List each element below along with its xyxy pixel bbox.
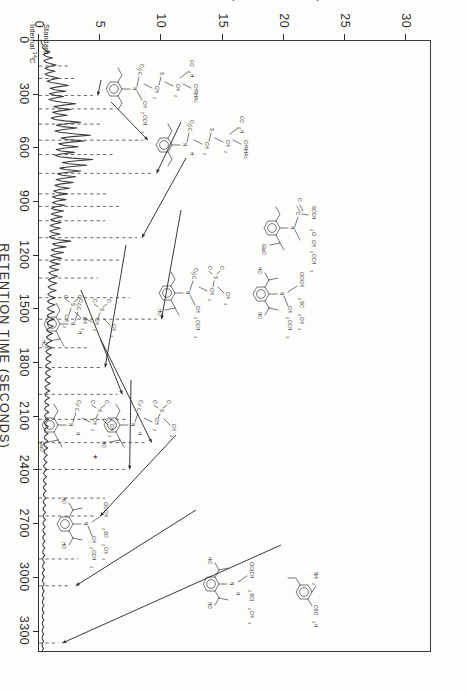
svg-text:C: C bbox=[136, 408, 141, 412]
svg-text:CH: CH bbox=[154, 418, 159, 425]
svg-text:3: 3 bbox=[109, 335, 113, 337]
svg-text:CH: CH bbox=[249, 611, 254, 618]
svg-text:NH: NH bbox=[313, 572, 318, 579]
svg-text:N: N bbox=[132, 87, 137, 90]
structure-mesylate-hydroxy-2: CH3 S O O CH2 C O N H bbox=[96, 392, 190, 486]
svg-text:CH: CH bbox=[111, 324, 116, 331]
svg-text:H: H bbox=[77, 331, 82, 334]
structure-aminophenyl-sulfate: NH2 OSO3H bbox=[268, 558, 344, 634]
svg-text:SO: SO bbox=[103, 531, 108, 538]
svg-text:CO: CO bbox=[189, 60, 194, 67]
svg-text:C: C bbox=[187, 128, 192, 132]
svg-text:SO: SO bbox=[299, 301, 304, 308]
svg-text:3: 3 bbox=[140, 131, 144, 133]
svg-text:2: 2 bbox=[90, 429, 94, 431]
svg-text:ClOCH: ClOCH bbox=[299, 272, 304, 287]
svg-text:SO): SO) bbox=[249, 593, 254, 602]
svg-text:GluO: GluO bbox=[39, 441, 44, 452]
x-axis-tick-label: 900 bbox=[17, 190, 31, 212]
svg-text:N: N bbox=[182, 143, 187, 146]
svg-text:C: C bbox=[191, 276, 196, 280]
svg-text:CH: CH bbox=[171, 424, 176, 431]
svg-text:HO: HO bbox=[207, 557, 212, 564]
svg-text:3: 3 bbox=[297, 328, 301, 330]
svg-text:OCH: OCH bbox=[142, 115, 147, 125]
svg-text:H: H bbox=[189, 74, 194, 77]
figure-page: RETENTION TIME (SECONDS) RESPONSE (MILLI… bbox=[0, 0, 469, 693]
x-axis-tick-label: 3300 bbox=[17, 616, 31, 645]
svg-text:2: 2 bbox=[193, 317, 197, 319]
internal-standard-label-2: Standard bbox=[41, 24, 51, 55]
svg-text:HO: HO bbox=[61, 497, 66, 504]
svg-text:3: 3 bbox=[169, 435, 173, 437]
svg-text:CH: CH bbox=[103, 547, 108, 554]
x-axis-tick-label: 300 bbox=[17, 83, 31, 105]
svg-text:O: O bbox=[189, 120, 194, 124]
y-axis-title: RESPONSE (MILLIVOLTS) bbox=[148, 0, 322, 1]
svg-text:2: 2 bbox=[92, 329, 96, 331]
x-axis-tick-label: 600 bbox=[17, 136, 31, 158]
y-axis-tick-label: 15 bbox=[216, 13, 230, 28]
svg-text:CH: CH bbox=[204, 142, 209, 149]
svg-text:O: O bbox=[138, 400, 143, 404]
svg-text:C: C bbox=[76, 307, 81, 311]
svg-text:OCH: OCH bbox=[287, 320, 292, 330]
svg-text:H: H bbox=[137, 432, 142, 435]
svg-text:C: C bbox=[74, 408, 79, 412]
svg-text:CH: CH bbox=[142, 101, 147, 108]
svg-text:2: 2 bbox=[285, 317, 289, 319]
svg-text:2: 2 bbox=[207, 299, 211, 301]
svg-text:2: 2 bbox=[247, 590, 251, 592]
svg-text:2: 2 bbox=[309, 251, 313, 253]
svg-text:HO: HO bbox=[257, 312, 262, 319]
svg-text:O: O bbox=[139, 64, 144, 68]
svg-text:CH: CH bbox=[311, 240, 316, 247]
structure-mesylate-hydroxy: CH3 S O O CH2 C O N H bbox=[24, 288, 134, 398]
svg-text:S: S bbox=[159, 409, 164, 412]
svg-text:N: N bbox=[70, 322, 75, 325]
svg-text:2: 2 bbox=[297, 314, 301, 316]
x-axis-tick-label: 1200 bbox=[17, 240, 31, 269]
svg-text:ClOCH: ClOCH bbox=[103, 502, 108, 517]
svg-text:2: 2 bbox=[152, 429, 156, 431]
svg-text:O: O bbox=[193, 268, 198, 272]
svg-text:CH: CH bbox=[287, 306, 292, 313]
svg-text:OCH: OCH bbox=[195, 320, 200, 330]
y-axis-tick-label: 30 bbox=[400, 13, 414, 28]
svg-text:C: C bbox=[137, 72, 142, 76]
svg-text:2: 2 bbox=[247, 608, 251, 610]
x-axis-tick-label: 2400 bbox=[17, 455, 31, 484]
svg-text:2: 2 bbox=[223, 151, 227, 153]
svg-text:CHNHAc: CHNHAc bbox=[193, 84, 198, 103]
structure-chloro-sulfonyl-diol: ClOCH2SO2CH3 CH2OCH3 N HO HO bbox=[222, 258, 318, 354]
svg-text:CH: CH bbox=[175, 84, 180, 91]
svg-text:HO: HO bbox=[101, 441, 106, 448]
svg-text:N: N bbox=[130, 423, 135, 426]
svg-text:ClO(CH: ClO(CH bbox=[249, 562, 254, 578]
svg-text:GluO: GluO bbox=[261, 244, 266, 255]
y-axis-tick-label: 20 bbox=[277, 13, 291, 28]
internal-standard-annotation: Internal 14C Standard bbox=[30, 18, 100, 88]
svg-text:H: H bbox=[189, 152, 194, 155]
svg-text:O: O bbox=[78, 299, 83, 303]
svg-text:OSO: OSO bbox=[313, 605, 318, 616]
svg-text:S: S bbox=[213, 276, 218, 279]
svg-text:CH: CH bbox=[299, 317, 304, 324]
svg-text:S: S bbox=[99, 308, 104, 311]
svg-text:2: 2 bbox=[309, 229, 313, 231]
svg-text:3: 3 bbox=[193, 336, 197, 338]
svg-text:O: O bbox=[90, 400, 95, 404]
svg-text:N: N bbox=[185, 291, 190, 294]
svg-text:CO: CO bbox=[239, 116, 244, 123]
svg-text:S: S bbox=[209, 128, 214, 131]
svg-text:H: H bbox=[239, 130, 244, 133]
svg-text:CH: CH bbox=[91, 536, 96, 543]
svg-text:O: O bbox=[207, 266, 212, 270]
svg-text:CH: CH bbox=[195, 306, 200, 313]
svg-text:3: 3 bbox=[285, 336, 289, 338]
svg-text:O: O bbox=[76, 400, 81, 404]
internal-standard-label: Internal 14C bbox=[27, 24, 38, 63]
svg-text:S: S bbox=[159, 72, 164, 75]
svg-text:3: 3 bbox=[89, 566, 93, 568]
svg-text:O: O bbox=[106, 299, 111, 303]
